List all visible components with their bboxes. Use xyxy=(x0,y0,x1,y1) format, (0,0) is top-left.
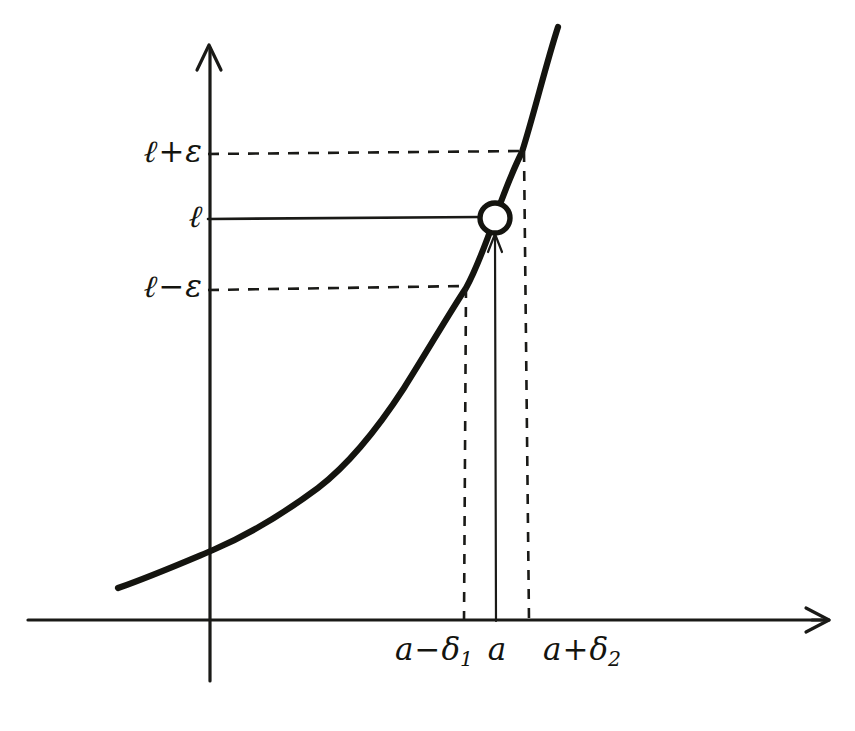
minus-operator: − xyxy=(413,631,441,667)
epsilon-glyph: ε xyxy=(185,268,202,304)
minus-operator: − xyxy=(157,268,185,304)
limit-diagram-figure: ℓ+ε ℓ ℓ−ε a−δ1 a a+δ2 xyxy=(0,0,855,731)
open-circle-point-group xyxy=(480,203,510,233)
limit-level-guide xyxy=(208,217,481,219)
a-glyph: a xyxy=(488,631,506,667)
delta2-vertical-guide xyxy=(524,152,529,621)
function-curve xyxy=(118,27,558,588)
epsilon-upper-guide xyxy=(208,151,524,154)
open-circle-point xyxy=(480,203,510,233)
epsilon-glyph: ε xyxy=(185,133,202,169)
delta1-vertical-guide xyxy=(464,288,466,621)
a-pointer-group xyxy=(488,234,502,621)
a-glyph: a xyxy=(543,631,561,667)
diagram-canvas xyxy=(0,0,855,731)
delta-glyph: δ xyxy=(589,631,608,667)
ell-glyph: ℓ xyxy=(188,201,204,232)
y-axis-label-l-minus-epsilon: ℓ−ε xyxy=(124,271,202,302)
plus-operator: + xyxy=(561,631,589,667)
a-glyph: a xyxy=(395,631,413,667)
a-pointer-line xyxy=(495,236,496,621)
epsilon-lower-guide xyxy=(208,286,466,290)
delta-subscript: 2 xyxy=(608,647,621,671)
function-curve-group xyxy=(118,27,558,588)
y-axis-label-l-plus-epsilon: ℓ+ε xyxy=(124,136,202,167)
y-axis-label-l: ℓ xyxy=(124,201,202,232)
plus-operator: + xyxy=(157,133,185,169)
x-axis-label-a-plus-delta2: a+δ2 xyxy=(522,634,642,669)
